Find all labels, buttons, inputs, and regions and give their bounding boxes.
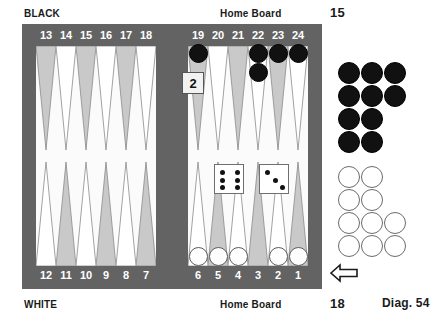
- doubling-cube-value: 2: [189, 76, 196, 91]
- bar-strip-right: [188, 150, 308, 162]
- die-two[interactable]: [259, 164, 289, 194]
- borne-off-checker-white[interactable]: [361, 189, 383, 211]
- point-triangle: [36, 46, 56, 150]
- black-pip-count: 15: [330, 5, 345, 20]
- point-18[interactable]: [136, 46, 156, 150]
- point-triangle: [228, 46, 248, 150]
- point-number-4: 4: [228, 269, 248, 281]
- black-borne-off-tray: [338, 62, 428, 162]
- checker-black-point-23[interactable]: [269, 44, 288, 63]
- point-11[interactable]: [56, 162, 76, 266]
- black-player-label: BLACK: [24, 8, 60, 19]
- point-number-13: 13: [36, 29, 56, 41]
- point-10[interactable]: [76, 162, 96, 266]
- point-number-5: 5: [208, 269, 228, 281]
- point-number-6: 6: [188, 269, 208, 281]
- borne-off-checker-white[interactable]: [338, 189, 360, 211]
- borne-off-checker-black[interactable]: [361, 131, 383, 153]
- point-12[interactable]: [36, 162, 56, 266]
- point-number-1: 1: [288, 269, 308, 281]
- bar-strip-left: [36, 150, 156, 162]
- doubling-cube[interactable]: 2: [182, 72, 204, 94]
- borne-off-checker-black[interactable]: [338, 108, 360, 130]
- checker-white-point-4[interactable]: [229, 247, 248, 266]
- checker-white-point-2[interactable]: [269, 247, 288, 266]
- diagram-caption: Diag. 54: [382, 296, 430, 310]
- point-number-10: 10: [76, 269, 96, 281]
- point-number-15: 15: [76, 29, 96, 41]
- point-triangle: [136, 162, 156, 266]
- point-8[interactable]: [116, 162, 136, 266]
- point-number-12: 12: [36, 269, 56, 281]
- borne-off-checker-white[interactable]: [384, 235, 406, 257]
- point-triangle: [56, 162, 76, 266]
- home-board-label-bottom: Home Board: [220, 299, 281, 310]
- point-21[interactable]: [228, 46, 248, 150]
- point-number-23: 23: [268, 29, 288, 41]
- die-pip: [220, 178, 225, 183]
- checker-white-point-1[interactable]: [289, 247, 308, 266]
- die-one[interactable]: [214, 164, 244, 194]
- point-9[interactable]: [96, 162, 116, 266]
- borne-off-checker-white[interactable]: [361, 166, 383, 188]
- die-pip: [235, 185, 240, 190]
- white-player-label: WHITE: [24, 299, 57, 310]
- checker-black-point-22[interactable]: [249, 63, 268, 82]
- die-pip: [273, 178, 278, 183]
- die-pip: [235, 178, 240, 183]
- die-pip: [220, 185, 225, 190]
- point-20[interactable]: [208, 46, 228, 150]
- borne-off-checker-black[interactable]: [338, 131, 360, 153]
- checker-white-point-5[interactable]: [209, 247, 228, 266]
- borne-off-checker-black[interactable]: [384, 85, 406, 107]
- point-triangle: [76, 162, 96, 266]
- point-triangle: [36, 162, 56, 266]
- die-pip: [265, 170, 270, 175]
- borne-off-checker-black[interactable]: [361, 62, 383, 84]
- borne-off-checker-black[interactable]: [384, 62, 406, 84]
- borne-off-checker-black[interactable]: [361, 108, 383, 130]
- point-number-7: 7: [136, 269, 156, 281]
- checker-black-point-19[interactable]: [189, 44, 208, 63]
- point-triangle: [56, 46, 76, 150]
- point-number-17: 17: [116, 29, 136, 41]
- point-number-3: 3: [248, 269, 268, 281]
- point-number-18: 18: [136, 29, 156, 41]
- point-number-16: 16: [96, 29, 116, 41]
- borne-off-checker-white[interactable]: [361, 235, 383, 257]
- borne-off-checker-white[interactable]: [338, 166, 360, 188]
- direction-arrow-icon: [330, 262, 358, 284]
- point-15[interactable]: [76, 46, 96, 150]
- point-number-22: 22: [248, 29, 268, 41]
- point-13[interactable]: [36, 46, 56, 150]
- borne-off-checker-white[interactable]: [384, 212, 406, 234]
- point-number-8: 8: [116, 269, 136, 281]
- point-number-11: 11: [56, 269, 76, 281]
- point-7[interactable]: [136, 162, 156, 266]
- borne-off-checker-black[interactable]: [361, 85, 383, 107]
- borne-off-checker-white[interactable]: [338, 212, 360, 234]
- point-16[interactable]: [96, 46, 116, 150]
- backgammon-board: 131415161718192021222324121110987654321 …: [22, 24, 322, 289]
- white-borne-off-tray: [338, 166, 428, 266]
- die-pip: [220, 170, 225, 175]
- die-pip: [280, 185, 285, 190]
- point-17[interactable]: [116, 46, 136, 150]
- borne-off-checker-white[interactable]: [361, 212, 383, 234]
- point-number-19: 19: [188, 29, 208, 41]
- checker-black-point-24[interactable]: [289, 44, 308, 63]
- point-triangle: [116, 162, 136, 266]
- borne-off-checker-black[interactable]: [338, 62, 360, 84]
- checker-white-point-6[interactable]: [189, 247, 208, 266]
- point-triangle: [96, 162, 116, 266]
- point-triangle: [116, 46, 136, 150]
- checker-black-point-22[interactable]: [249, 44, 268, 63]
- point-14[interactable]: [56, 46, 76, 150]
- home-board-label-top: Home Board: [220, 8, 281, 19]
- point-triangle: [208, 46, 228, 150]
- die-pip: [235, 170, 240, 175]
- borne-off-checker-black[interactable]: [338, 85, 360, 107]
- point-number-9: 9: [96, 269, 116, 281]
- borne-off-checker-white[interactable]: [338, 235, 360, 257]
- point-number-24: 24: [288, 29, 308, 41]
